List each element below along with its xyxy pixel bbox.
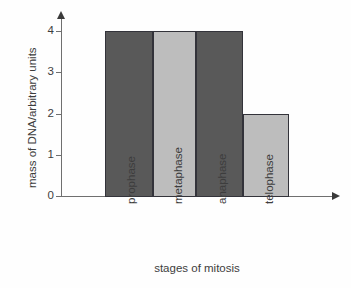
y-axis-arrow-icon xyxy=(57,11,65,19)
x-tick-label-anaphase: anaphase xyxy=(216,134,228,204)
y-tick-label-4: 4 xyxy=(14,25,54,37)
y-tick-label-0: 0 xyxy=(14,190,54,202)
x-tick-label-metaphase: metaphase xyxy=(172,134,184,204)
y-axis-line xyxy=(61,18,62,197)
x-tick-label-prophase: prophase xyxy=(125,134,137,204)
bar-chart: 4 3 2 1 0 prophase metaphase anaphase te… xyxy=(0,0,351,288)
y-tick-mark-3 xyxy=(56,72,62,73)
y-tick-mark-4 xyxy=(56,31,62,32)
y-tick-mark-1 xyxy=(56,155,62,156)
x-axis-title: stages of mitosis xyxy=(61,262,333,275)
y-axis-title: mass of DNA/arbitrary units xyxy=(26,47,38,188)
y-tick-mark-0 xyxy=(56,196,62,197)
y-tick-mark-2 xyxy=(56,114,62,115)
x-axis-arrow-icon xyxy=(332,192,340,200)
plot-area: 4 3 2 1 0 prophase metaphase anaphase te… xyxy=(0,0,351,288)
x-tick-label-telophase: telophase xyxy=(263,134,275,204)
